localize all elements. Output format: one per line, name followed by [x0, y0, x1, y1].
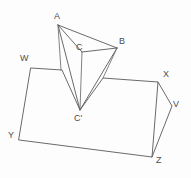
vertex-label-x: X	[163, 70, 169, 79]
vertex-label-a: A	[54, 12, 60, 21]
vertex-label-b: B	[119, 37, 125, 46]
vertex-label-c: C	[76, 43, 83, 52]
vertex-label-y: Y	[8, 131, 14, 140]
flap-edge-b-c	[82, 48, 117, 52]
base-solid-group	[19, 68, 172, 157]
crease-right-path	[103, 48, 117, 78]
vertex-label-v: V	[173, 100, 179, 109]
flap-edge-a-b	[58, 25, 117, 48]
geometric-figure: A B C C' W X V Y Z	[0, 0, 191, 178]
figure-canvas	[0, 0, 191, 178]
fold-edge-c-cprime	[80, 52, 82, 110]
vertex-label-z: Z	[156, 156, 162, 165]
vertex-label-w: W	[20, 54, 29, 63]
vertex-label-c-prime: C'	[74, 114, 82, 123]
base-outline-path	[19, 68, 158, 157]
